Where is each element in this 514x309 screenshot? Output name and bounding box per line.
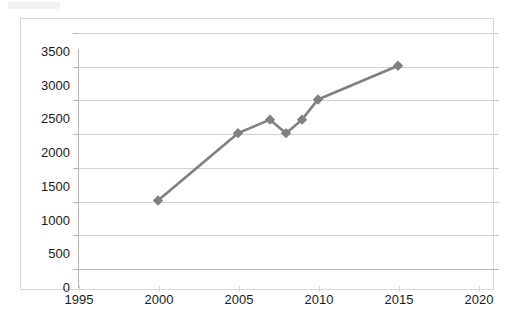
y-axis-label: 500 bbox=[48, 247, 70, 260]
y-axis-label: 2000 bbox=[41, 146, 70, 159]
x-axis-label: 2005 bbox=[225, 293, 254, 306]
x-tick-mark bbox=[399, 286, 400, 291]
gridline bbox=[79, 134, 499, 135]
y-axis-label: 3000 bbox=[41, 79, 70, 92]
x-axis-label: 2000 bbox=[145, 293, 174, 306]
y-axis-label: 3500 bbox=[41, 45, 70, 58]
y-axis-label: 1000 bbox=[41, 214, 70, 227]
x-tick-mark bbox=[239, 286, 240, 291]
x-axis-label: 2010 bbox=[305, 293, 334, 306]
image-artifact bbox=[8, 2, 60, 9]
x-axis-label: 2015 bbox=[385, 293, 414, 306]
gridline bbox=[79, 202, 499, 203]
y-tick-mark bbox=[73, 100, 79, 101]
x-axis-line bbox=[79, 269, 499, 270]
y-tick-mark bbox=[73, 269, 79, 270]
x-tick-mark bbox=[79, 286, 80, 291]
y-tick-mark bbox=[73, 67, 79, 68]
x-tick-mark bbox=[159, 286, 160, 291]
gridline bbox=[79, 168, 499, 169]
plot-area bbox=[79, 51, 499, 286]
y-tick-mark bbox=[73, 202, 79, 203]
chart-frame: 0500100015002000250030003500 19952000200… bbox=[20, 18, 494, 290]
y-axis-tick-labels: 0500100015002000250030003500 bbox=[21, 19, 70, 309]
x-tick-mark bbox=[479, 286, 480, 291]
gridline bbox=[79, 33, 499, 34]
y-tick-mark bbox=[73, 134, 79, 135]
y-tick-mark bbox=[73, 235, 79, 236]
x-tick-mark bbox=[319, 286, 320, 291]
x-axis-label: 2020 bbox=[465, 293, 494, 306]
gridline bbox=[79, 100, 499, 101]
y-tick-mark bbox=[73, 168, 79, 169]
gridline bbox=[79, 235, 499, 236]
x-axis-label: 1995 bbox=[65, 293, 94, 306]
gridline bbox=[79, 67, 499, 68]
y-axis-label: 1500 bbox=[41, 180, 70, 193]
y-axis-label: 2500 bbox=[41, 112, 70, 125]
y-tick-mark bbox=[73, 33, 79, 34]
